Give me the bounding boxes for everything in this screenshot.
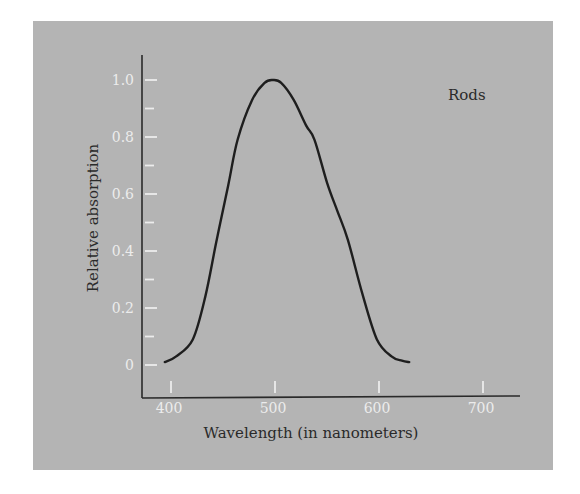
y-tick-label: 0.8 <box>112 129 134 145</box>
x-axis-label: Wavelength (in nanometers) <box>204 424 419 442</box>
y-axis-ticks: 00.20.40.60.81.0 <box>112 72 157 373</box>
rods-absorption-curve <box>165 80 409 362</box>
x-tick-label: 700 <box>468 400 495 416</box>
axes <box>142 55 520 398</box>
absorption-chart: 00.20.40.60.81.0 400500600700 Rods Wavel… <box>0 0 580 494</box>
y-tick-label: 0.4 <box>112 243 134 259</box>
y-tick-label: 0 <box>125 357 134 373</box>
x-tick-label: 400 <box>156 400 183 416</box>
y-tick-label: 0.6 <box>112 186 134 202</box>
y-tick-label: 1.0 <box>112 72 134 88</box>
x-axis-ticks: 400500600700 <box>156 381 495 416</box>
y-tick-label: 0.2 <box>112 300 134 316</box>
rods-label: Rods <box>448 86 486 104</box>
y-axis-label: Relative absorption <box>84 143 102 292</box>
x-axis-line <box>142 396 520 398</box>
x-tick-label: 600 <box>364 400 391 416</box>
x-tick-label: 500 <box>260 400 287 416</box>
